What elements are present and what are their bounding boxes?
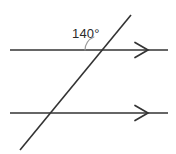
angle-label: 140° <box>72 26 100 41</box>
geometry-figure: 140° <box>0 0 176 154</box>
figure-canvas: 140° <box>0 0 176 154</box>
